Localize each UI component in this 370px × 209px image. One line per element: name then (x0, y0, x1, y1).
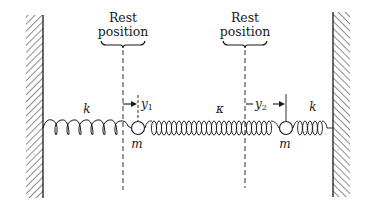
rest-position-label-2: Rest position (220, 10, 271, 48)
coupled-oscillator-diagram: Rest position Rest position (0, 0, 370, 209)
rest-label-line1: Rest (231, 10, 259, 25)
y1-label: y1 (140, 97, 153, 112)
spring-right-icon (293, 121, 333, 135)
rest-label-line2: position (220, 24, 271, 39)
right-wall (333, 12, 350, 197)
arrow-right-icon (131, 101, 137, 107)
mass-2 (280, 122, 293, 135)
spring-middle-icon (145, 121, 279, 135)
spring-right-label: k (309, 100, 316, 114)
spring-left-icon (43, 120, 131, 135)
rest-position-label-1: Rest position (98, 10, 149, 48)
brace-icon (223, 41, 267, 48)
spring-middle-label: κ (215, 102, 224, 116)
rest-label-line1: Rest (109, 10, 137, 25)
displacement-y1: y1 (123, 95, 153, 121)
left-wall (26, 15, 43, 198)
arrow-right-icon (279, 101, 285, 107)
rest-label-line2: position (98, 24, 149, 39)
displacement-y2: y2 (246, 94, 286, 121)
y2-label: y2 (254, 97, 267, 112)
spring-left-label: k (83, 102, 90, 116)
brace-icon (101, 41, 145, 48)
mass-1 (132, 122, 145, 135)
mass-2-label: m (279, 137, 290, 151)
mass-1-label: m (131, 137, 142, 151)
